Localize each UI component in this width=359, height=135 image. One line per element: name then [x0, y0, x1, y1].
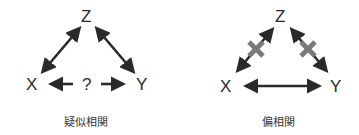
node-y: Y	[136, 76, 147, 93]
node-x: X	[220, 78, 231, 95]
node-z: Z	[275, 8, 285, 25]
caption-partial: 偏相関	[262, 113, 295, 129]
spurious-correlation-diagram: Z X Y ? 疑似相関	[0, 0, 180, 135]
unknown-label: ?	[82, 76, 91, 93]
cross-mark-right	[301, 42, 315, 56]
node-z: Z	[81, 8, 91, 25]
partial-correlation-diagram: Z X Y 偏相関	[180, 0, 359, 135]
node-x: X	[26, 76, 37, 93]
node-y: Y	[330, 78, 341, 95]
caption-spurious: 疑似相関	[64, 113, 108, 129]
cross-mark-left	[249, 42, 263, 56]
